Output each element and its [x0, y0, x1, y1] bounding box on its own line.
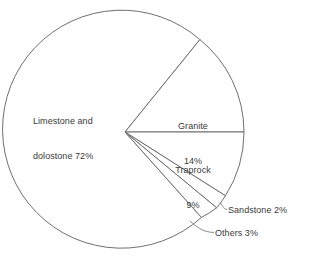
pie-label-sandstone: Sandstone 2% — [228, 205, 287, 217]
pie-label-limestone-and-dolostone: Limestone and dolostone 72% — [33, 93, 93, 185]
pie-label-limestone-line2: dolostone 72% — [33, 151, 93, 163]
pie-label-limestone-line1: Limestone and — [33, 116, 93, 128]
pie-label-granite-line1: Granite — [160, 121, 226, 133]
pie-chart-figure: Limestone and dolostone 72% Granite 14% … — [0, 0, 309, 263]
pie-label-traprock-line1: Traprock — [160, 165, 226, 177]
pie-label-traprock: Traprock 9% — [160, 142, 226, 234]
pie-label-traprock-line2: 9% — [160, 200, 226, 212]
pie-label-others: Others 3% — [215, 228, 258, 240]
